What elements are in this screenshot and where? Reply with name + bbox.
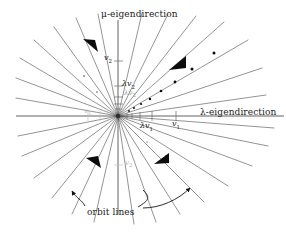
- orbit-point: [174, 81, 177, 84]
- v2-label: v2: [104, 54, 112, 64]
- negative-v1-label-sub: 1: [88, 110, 92, 116]
- orbit-point-faint: [83, 75, 85, 77]
- orbit-lines-leader-left: [72, 191, 85, 206]
- flow-arrow-upper-left: [83, 39, 98, 52]
- orbit-point: [213, 52, 216, 55]
- orbit-point: [128, 110, 130, 112]
- v1-label: v1: [172, 120, 180, 130]
- orbit-point: [140, 103, 142, 105]
- orbit-ray: [76, 18, 118, 116]
- lambda2-v2-label: λv2: [124, 90, 136, 99]
- orbit-point-faint: [146, 141, 148, 143]
- lambda-v1-label-sub: 1: [150, 126, 154, 132]
- diagram-canvas: [0, 0, 286, 234]
- flow-arrow-lower-left: [86, 156, 101, 168]
- orbit-point: [191, 68, 194, 71]
- negative-v1-label: v1: [84, 108, 91, 117]
- lambda-v1-label: λv1: [140, 122, 153, 132]
- orbit-ray: [18, 116, 118, 136]
- lambda-v2-label-text: λv: [122, 79, 132, 88]
- v1-label-sub: 1: [177, 124, 181, 130]
- orbit-point-faint: [96, 91, 98, 93]
- negative-v2-label-sub: 2: [129, 162, 133, 168]
- orbit-ray: [22, 116, 118, 156]
- orbit-point: [133, 107, 135, 109]
- orbit-point: [160, 90, 163, 93]
- orbit-point: [149, 98, 151, 100]
- lambda2-v2-label-sub: 2: [132, 92, 136, 98]
- orbit-ray: [118, 40, 248, 116]
- equilibrium-point: [116, 114, 120, 118]
- orbit-point-group: [128, 52, 215, 112]
- lambda-eigendirection-label: λ-eigendirection: [200, 108, 276, 117]
- orbit-ray: [118, 14, 168, 116]
- phase-portrait-figure: μ-eigendirection λ-eigendirection orbit …: [0, 0, 286, 234]
- orbit-lines-leader-right: [138, 190, 148, 207]
- mu-eigendirection-label: μ-eigendirection: [101, 10, 178, 19]
- negative-v2-label: v2: [125, 160, 132, 169]
- orbit-ray: [16, 78, 118, 116]
- orbit-lines-caption: orbit lines: [87, 208, 134, 217]
- lambda-v1-label-text: λv: [140, 121, 150, 130]
- flow-arrow-group: [83, 39, 186, 168]
- v2-label-sub: 2: [109, 58, 113, 64]
